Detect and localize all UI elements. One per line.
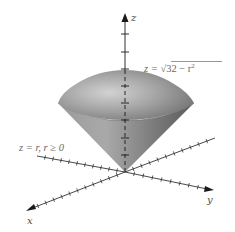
- axis-ticks-front: [37, 172, 198, 208]
- sphere-eq-exponent: 2: [191, 62, 195, 70]
- x-axis-label: x: [27, 215, 33, 226]
- y-axis-tick: [197, 185, 198, 189]
- y-axis-tick: [143, 174, 144, 178]
- y-axis-tick: [61, 158, 62, 162]
- sphere-eq-lhs: z =: [143, 63, 160, 74]
- cone-equation: z = r, r ≥ 0: [18, 142, 65, 153]
- svg-text:z = √32 − r2: z = √32 − r2: [143, 62, 195, 74]
- y-axis-tick: [134, 172, 135, 176]
- axes-front: [26, 172, 214, 211]
- y-axis-tick: [170, 179, 171, 183]
- y-axis-tick: [93, 164, 94, 168]
- y-axis-tick: [117, 168, 118, 172]
- z-axis-label: z: [130, 12, 137, 23]
- y-axis-tick: [45, 155, 46, 159]
- y-axis-tick: [53, 157, 54, 161]
- y-axis-tick: [77, 161, 78, 165]
- y-axis-tick: [85, 163, 86, 167]
- y-axis-tick: [161, 177, 162, 181]
- y-axis-tick: [188, 183, 189, 187]
- y-axis-front: [125, 172, 207, 189]
- z-axis-arrow-icon: [122, 13, 129, 22]
- sphere-cap-surface: [58, 70, 194, 120]
- sphere-equation: z = √32 − r2: [143, 62, 222, 75]
- y-axis-tick: [179, 181, 180, 185]
- y-axis-tick: [152, 175, 153, 179]
- y-axis-tick: [101, 165, 102, 169]
- y-axis-tick: [69, 160, 70, 164]
- sphere-eq-radicand: 32 − r: [166, 63, 192, 74]
- y-axis-arrow-icon: [204, 186, 214, 192]
- cone-sphere-figure: z x y z = √32 − r2 z = r, r ≥ 0: [0, 0, 235, 232]
- y-axis-label: y: [206, 194, 213, 205]
- x-axis-arrow-icon: [26, 204, 36, 211]
- y-axis-tick: [109, 167, 110, 171]
